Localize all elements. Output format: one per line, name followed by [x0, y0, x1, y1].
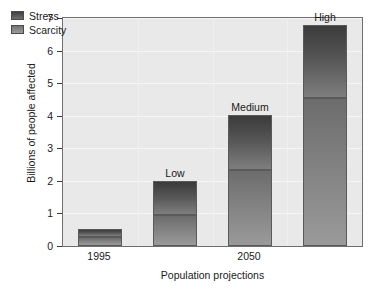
x-axis-tick-labels: 19952050 [62, 250, 363, 264]
bar-segment-stress[interactable] [78, 229, 122, 237]
bar-value-label: Medium [231, 101, 268, 113]
bar-low[interactable] [153, 181, 197, 246]
bar-segment-stress[interactable] [228, 115, 272, 170]
bar-segment-scarcity[interactable] [78, 237, 122, 246]
bar-segment-scarcity[interactable] [303, 98, 347, 246]
x-axis-title: Population projections [62, 269, 363, 281]
legend-label-stress: Stress [29, 10, 59, 22]
legend-item-stress: Stress [11, 9, 66, 22]
x-axis-tick-label: 2050 [237, 250, 260, 262]
legend-swatch-stress [11, 11, 24, 20]
bar-segment-stress[interactable] [303, 25, 347, 98]
bar-high[interactable] [303, 25, 347, 246]
y-axis-tick-label: 2 [47, 175, 53, 186]
y-axis-tick-label: 1 [47, 208, 53, 219]
y-axis-tick-label: 4 [47, 110, 53, 121]
legend: Stress Scarcity [11, 9, 66, 37]
legend-item-scarcity: Scarcity [11, 23, 66, 36]
bar-medium[interactable] [228, 115, 272, 246]
chart-figure: Billions of people affected 01234567 Low… [0, 0, 377, 298]
bar-value-label: High [314, 11, 336, 23]
bar-segment-scarcity[interactable] [153, 215, 197, 246]
legend-swatch-scarcity [11, 25, 24, 34]
gridline-vertical [138, 18, 139, 246]
bar-segment-stress[interactable] [153, 181, 197, 216]
plot-area: LowMediumHigh [62, 17, 363, 247]
bar-value-label: Low [165, 167, 184, 179]
y-axis: 01234567 [0, 17, 62, 248]
gridline-vertical [287, 18, 288, 246]
legend-label-scarcity: Scarcity [29, 24, 66, 36]
y-axis-tick-label: 0 [47, 241, 53, 252]
y-axis-tick-label: 3 [47, 143, 53, 154]
x-axis-tick-label: 1995 [87, 250, 110, 262]
bar-1995[interactable] [78, 229, 122, 246]
y-axis-tick-label: 5 [47, 78, 53, 89]
gridline-vertical [213, 18, 214, 246]
y-axis-tick-label: 6 [47, 45, 53, 56]
bar-segment-scarcity[interactable] [228, 170, 272, 246]
